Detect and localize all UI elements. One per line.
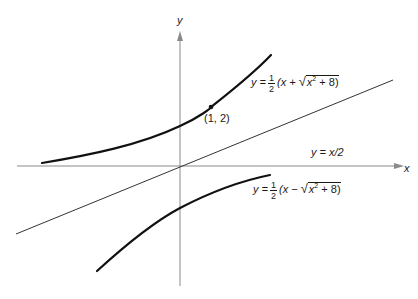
upper-frac-den: 2 bbox=[268, 84, 275, 94]
lower-radicand-rest: + 8) bbox=[321, 183, 340, 195]
sqrt-icon: √ bbox=[299, 74, 306, 89]
x-axis-arrow-icon bbox=[394, 163, 404, 169]
lower-prefix: y = bbox=[253, 183, 268, 195]
lower-radicand: x2 + 8) bbox=[308, 182, 341, 195]
asymptote-formula: y = x/2 bbox=[311, 146, 344, 158]
lower-fraction: 12 bbox=[270, 180, 277, 201]
upper-frac-num: 1 bbox=[268, 73, 275, 84]
x-axis-label: x bbox=[404, 163, 410, 174]
lower-radicand-exp: 2 bbox=[314, 183, 318, 190]
asymptote-label: y = x/2 bbox=[311, 147, 344, 158]
upper-fraction: 12 bbox=[268, 73, 275, 94]
y-axis-arrow-icon bbox=[177, 31, 183, 41]
point-marker bbox=[209, 105, 214, 110]
lower-branch-label: y =12(x − √x2 + 8) bbox=[253, 180, 341, 201]
lower-open: (x − bbox=[279, 183, 298, 195]
upper-branch-label: y =12(x + √x2 + 8) bbox=[251, 73, 339, 94]
upper-radicand: x2 + 8) bbox=[306, 75, 339, 88]
lower-frac-den: 2 bbox=[270, 191, 277, 201]
lower-frac-num: 1 bbox=[270, 180, 277, 191]
upper-prefix: y = bbox=[251, 76, 266, 88]
sqrt-icon: √ bbox=[301, 181, 308, 196]
y-axis-label: y bbox=[177, 15, 183, 26]
upper-open: (x + bbox=[277, 76, 296, 88]
upper-radicand-rest: + 8) bbox=[319, 76, 338, 88]
point-label: (1, 2) bbox=[204, 113, 230, 124]
diagram-canvas bbox=[0, 0, 418, 299]
lower-branch-curve bbox=[97, 175, 270, 271]
upper-branch-curve bbox=[42, 55, 271, 163]
upper-radicand-exp: 2 bbox=[312, 76, 316, 83]
